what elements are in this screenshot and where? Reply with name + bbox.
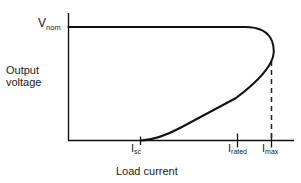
- y-tick-label-vnom: Vnom: [38, 17, 61, 30]
- isc-subscript: sc: [134, 148, 141, 155]
- x-tick-label-imax: Imax: [262, 142, 278, 154]
- vnom-symbol: V: [38, 16, 46, 30]
- imax-subscript: max: [265, 148, 278, 155]
- y-axis-label-line2: voltage: [6, 76, 41, 88]
- vnom-subscript: nom: [46, 23, 61, 32]
- y-axis-label: Output voltage: [6, 64, 41, 89]
- x-tick-label-irated: Irated: [228, 142, 247, 154]
- x-tick-label-isc: Isc: [131, 142, 141, 154]
- x-axis-label: Load current: [116, 165, 178, 177]
- irated-subscript: rated: [231, 148, 247, 155]
- y-axis-label-line1: Output: [6, 64, 41, 76]
